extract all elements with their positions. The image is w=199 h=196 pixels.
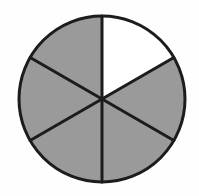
fraction-circle-figure: Circle divided into six equal sectors wi…	[0, 0, 199, 196]
fraction-circle-diagram: Circle divided into six equal sectors wi…	[0, 0, 199, 196]
